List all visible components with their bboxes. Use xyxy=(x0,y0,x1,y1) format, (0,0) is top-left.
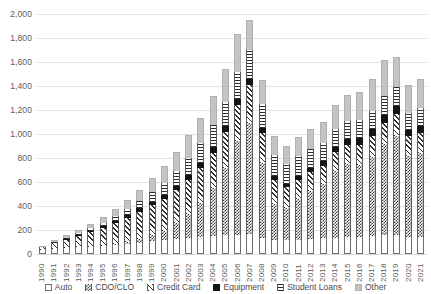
bar-segment-student-loans xyxy=(161,183,168,195)
bar-slot-1996[interactable] xyxy=(109,14,121,254)
stacked-bar-2020[interactable] xyxy=(405,85,412,254)
bar-slot-2009[interactable] xyxy=(268,14,280,254)
stacked-bar-2000[interactable] xyxy=(161,166,168,254)
bar-slot-2003[interactable] xyxy=(195,14,207,254)
legend-item-equipment[interactable]: Equipment xyxy=(213,283,264,292)
bar-slot-1991[interactable] xyxy=(48,14,60,254)
stacked-bar-1999[interactable] xyxy=(149,178,156,254)
stacked-bar-2010[interactable] xyxy=(283,146,290,254)
bar-slot-1998[interactable] xyxy=(134,14,146,254)
x-axis-tick-label: 2008 xyxy=(258,256,266,282)
stacked-bar-2008[interactable] xyxy=(259,80,266,254)
stacked-bar-2013[interactable] xyxy=(320,122,327,254)
bar-segment-other xyxy=(124,200,131,209)
stacked-bar-2016[interactable] xyxy=(356,92,363,254)
bar-slot-1992[interactable] xyxy=(60,14,72,254)
legend-item-auto[interactable]: Auto xyxy=(45,283,73,292)
stacked-bar-2017[interactable] xyxy=(369,79,376,254)
bar-slot-1990[interactable] xyxy=(36,14,48,254)
bar-slot-2007[interactable] xyxy=(244,14,256,254)
y-axis-tick-label: 400 xyxy=(18,202,32,211)
stacked-bar-2003[interactable] xyxy=(197,118,204,254)
bar-slot-2017[interactable] xyxy=(366,14,378,254)
legend-item-other[interactable]: Other xyxy=(355,283,386,292)
bar-slot-2010[interactable] xyxy=(280,14,292,254)
bar-slot-1999[interactable] xyxy=(146,14,158,254)
bar-slot-2016[interactable] xyxy=(354,14,366,254)
x-axis-tick-slot: 2006 xyxy=(232,256,244,282)
bar-slot-2006[interactable] xyxy=(232,14,244,254)
legend-item-label: Credit Card xyxy=(157,283,200,292)
stacked-bar-1992[interactable] xyxy=(63,235,70,254)
bar-slot-2002[interactable] xyxy=(183,14,195,254)
x-axis-tick-label: 1993 xyxy=(75,256,83,282)
bar-segment-credit-card xyxy=(124,218,131,242)
bar-slot-2021[interactable] xyxy=(415,14,427,254)
legend-item-student-loans[interactable]: Student Loans xyxy=(277,283,342,292)
stacked-bar-1997[interactable] xyxy=(124,200,131,254)
legend-item-cdo-clo[interactable]: CDO/CLO xyxy=(85,283,134,292)
x-axis-tick-slot: 2002 xyxy=(183,256,195,282)
bar-segment-credit-card xyxy=(197,168,204,203)
bar-segment-student-loans xyxy=(344,121,351,139)
stacked-bar-2005[interactable] xyxy=(222,69,229,254)
stacked-bar-1991[interactable] xyxy=(51,240,58,254)
bar-slot-2008[interactable] xyxy=(256,14,268,254)
bar-segment-auto xyxy=(222,235,229,254)
bar-segment-other xyxy=(320,122,327,144)
bar-slot-2005[interactable] xyxy=(219,14,231,254)
bar-slot-2013[interactable] xyxy=(317,14,329,254)
bar-slot-2004[interactable] xyxy=(207,14,219,254)
bar-slot-2012[interactable] xyxy=(305,14,317,254)
bar-slot-2019[interactable] xyxy=(390,14,402,254)
y-axis-tick-label: 1,400 xyxy=(10,82,32,91)
stacked-bar-1995[interactable] xyxy=(100,217,107,254)
bar-segment-auto xyxy=(246,234,253,254)
stacked-bar-2019[interactable] xyxy=(393,57,400,254)
bar-slot-1997[interactable] xyxy=(122,14,134,254)
bar-segment-auto xyxy=(112,245,119,254)
bar-slot-1994[interactable] xyxy=(85,14,97,254)
x-axis-tick-label: 2013 xyxy=(319,256,327,282)
x-axis-tick-label: 1995 xyxy=(99,256,107,282)
x-axis-tick-slot: 2012 xyxy=(305,256,317,282)
stacked-bar-1998[interactable] xyxy=(136,190,143,254)
bar-segment-credit-card xyxy=(161,199,168,231)
stacked-bar-2001[interactable] xyxy=(173,152,180,254)
stacked-bar-2015[interactable] xyxy=(344,95,351,254)
bar-slot-2014[interactable] xyxy=(329,14,341,254)
stacked-bar-2012[interactable] xyxy=(307,129,314,254)
stacked-bar-1990[interactable] xyxy=(39,246,46,254)
bar-segment-student-loans xyxy=(320,143,327,161)
stacked-bar-2004[interactable] xyxy=(210,96,217,254)
stacked-bar-2007[interactable] xyxy=(246,20,253,254)
bar-slot-2020[interactable] xyxy=(403,14,415,254)
bar-segment-auto xyxy=(63,248,70,254)
bar-slot-1993[interactable] xyxy=(73,14,85,254)
stacked-bar-1996[interactable] xyxy=(112,209,119,254)
stacked-bar-2002[interactable] xyxy=(185,135,192,254)
bar-segment-student-loans xyxy=(185,158,192,175)
legend-swatch-icon xyxy=(85,284,92,291)
legend-item-credit-card[interactable]: Credit Card xyxy=(147,283,200,292)
bar-slot-2000[interactable] xyxy=(158,14,170,254)
bar-slot-2018[interactable] xyxy=(378,14,390,254)
bar-slot-2011[interactable] xyxy=(293,14,305,254)
stacked-bar-2018[interactable] xyxy=(381,60,388,254)
stacked-bar-2006[interactable] xyxy=(234,34,241,254)
stacked-bar-2021[interactable] xyxy=(417,79,424,254)
bar-segment-student-loans xyxy=(222,102,229,127)
stacked-bar-2011[interactable] xyxy=(295,137,302,254)
bar-slot-2015[interactable] xyxy=(341,14,353,254)
bar-slot-2001[interactable] xyxy=(170,14,182,254)
bar-segment-auto xyxy=(320,238,327,254)
stacked-bar-1994[interactable] xyxy=(87,224,94,254)
bar-segment-other xyxy=(259,80,266,104)
stacked-bar-1993[interactable] xyxy=(75,230,82,254)
bar-segment-auto xyxy=(124,244,131,254)
bar-segment-auto xyxy=(417,237,424,254)
legend-item-label: CDO/CLO xyxy=(95,283,134,292)
bar-slot-1995[interactable] xyxy=(97,14,109,254)
stacked-bar-2009[interactable] xyxy=(271,136,278,254)
stacked-bar-2014[interactable] xyxy=(332,105,339,254)
